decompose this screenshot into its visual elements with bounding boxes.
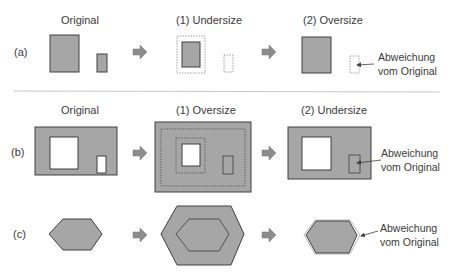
row-c-original	[49, 219, 102, 250]
deviation-pointer	[361, 231, 378, 236]
oversized-rect	[302, 37, 331, 73]
section-divider	[14, 91, 440, 92]
note-line: Abweichung	[381, 146, 440, 160]
note-line: vom Original	[378, 64, 437, 78]
header-original: Original	[61, 14, 99, 26]
note-line: Abweichung	[380, 221, 439, 235]
arrow-icon	[262, 228, 276, 242]
row-label-a: (a)	[14, 46, 27, 58]
hexagon	[49, 219, 102, 250]
header-oversize: (1) Oversize	[176, 104, 236, 116]
row-b-oversize	[155, 122, 251, 192]
undersized-rect	[182, 42, 200, 67]
deviation-pointer	[357, 64, 374, 65]
small-rect-deviation	[350, 56, 359, 73]
shrunk-small-hole	[223, 156, 233, 174]
row-c-oversize	[161, 206, 244, 265]
arrow-icon	[133, 45, 147, 59]
row-b-original	[35, 127, 117, 175]
deviation-note-c: Abweichung vom Original	[380, 221, 439, 249]
enlarged-large-hole	[302, 137, 331, 170]
row-c-undersize	[304, 220, 378, 254]
row-label-b: (b)	[11, 146, 24, 158]
undersized-hexagon	[306, 221, 357, 253]
small-rect-dashed	[224, 55, 233, 72]
row-a-oversize	[302, 37, 374, 73]
oversized-hexagon	[161, 206, 244, 265]
shrunk-large-hole	[182, 144, 200, 166]
arrow-icon	[133, 146, 147, 160]
arrow-icon	[133, 228, 147, 242]
small-hole	[97, 156, 106, 173]
large-rect	[50, 35, 79, 72]
oversized-plate	[155, 122, 251, 192]
small-hole-deviation	[349, 155, 360, 173]
note-line: Abweichung	[378, 50, 437, 64]
note-line: vom Original	[381, 160, 440, 174]
header-oversize: (2) Oversize	[303, 14, 363, 26]
row-b-undersize	[288, 127, 381, 179]
row-a-original	[50, 35, 107, 72]
large-hole	[50, 137, 78, 169]
header-original: Original	[61, 104, 99, 116]
small-rect	[97, 54, 107, 72]
row-label-c: (c)	[13, 228, 26, 240]
note-line: vom Original	[380, 235, 439, 249]
arrow-icon	[262, 146, 276, 160]
deviation-note-b: Abweichung vom Original	[381, 146, 440, 174]
arrow-icon	[262, 45, 276, 59]
deviation-note-a: Abweichung vom Original	[378, 50, 437, 78]
header-undersize: (1) Undersize	[176, 14, 242, 26]
header-undersize: (2) Undersize	[301, 104, 367, 116]
row-a-undersize	[177, 36, 233, 73]
